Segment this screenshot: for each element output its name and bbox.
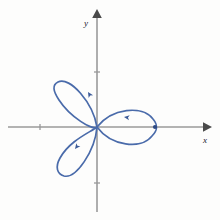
- x-axis-label: x: [202, 135, 207, 145]
- right-petal-tip-dot: [153, 125, 157, 129]
- x-axis-arrowhead: [203, 122, 212, 132]
- y-axis-label: y: [83, 18, 88, 28]
- arrow-lower-left-petal: [73, 143, 80, 150]
- arrow-upper-left-petal: [86, 91, 93, 98]
- axes-group: y x: [8, 9, 212, 212]
- direction-arrows-group: [73, 91, 130, 151]
- rose-curve-group: [54, 81, 157, 176]
- polar-rose-figure: y x: [0, 0, 220, 220]
- figure-canvas: y x: [0, 0, 220, 220]
- y-axis-arrowhead: [92, 9, 102, 18]
- upper-left-petal: [54, 81, 97, 128]
- arrow-right-petal: [124, 114, 130, 120]
- lower-left-petal: [57, 127, 97, 176]
